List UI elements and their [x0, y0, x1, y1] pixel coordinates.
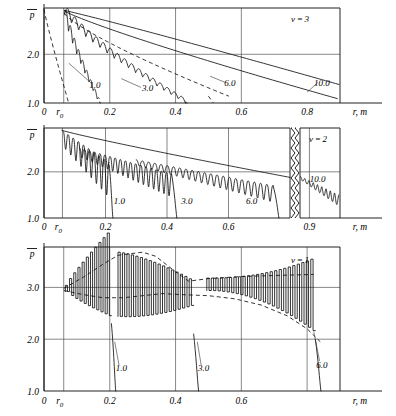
figure-root: 0r00.20.40.60.82.01.0pr, mν = 31.03.06.0…: [0, 0, 396, 416]
svg-text:r, m: r, m: [353, 222, 367, 232]
curve-envelope-mid-tail: [208, 96, 213, 103]
svg-text:6.0: 6.0: [224, 78, 236, 88]
chart-panel-nu-2: 0r00.20.40.60.92.01.0pr, mν = 21.03.06.0…: [0, 122, 396, 235]
svg-text:0: 0: [42, 107, 47, 117]
svg-text:0.8: 0.8: [301, 107, 313, 117]
svg-text:2.0: 2.0: [27, 167, 39, 177]
svg-text:r0: r0: [56, 107, 64, 120]
svg-text:3.0: 3.0: [180, 196, 193, 206]
curve-envelope-left: [44, 9, 69, 103]
panel-nu-2-canvas: 0r00.20.40.60.92.01.0pr, mν = 21.03.06.0…: [0, 122, 396, 235]
svg-text:ν = 1: ν = 1: [291, 255, 309, 265]
svg-text:2.0: 2.0: [27, 335, 39, 345]
svg-text:r0: r0: [56, 396, 64, 409]
svg-text:0.4: 0.4: [170, 107, 182, 117]
leader-3-0: [197, 342, 201, 365]
leader-1-0: [69, 63, 92, 83]
chart-panel-nu-1: 0r00.20.40.63.02.01.0pr, mν = 11.03.06.0: [0, 239, 396, 416]
svg-text:2.0: 2.0: [27, 50, 39, 60]
svg-text:0.4: 0.4: [170, 396, 182, 406]
leader-1-0: [115, 342, 119, 365]
svg-text:3.0: 3.0: [197, 363, 210, 373]
svg-text:p: p: [29, 130, 35, 140]
svg-text:r0: r0: [55, 222, 63, 235]
svg-text:r, m: r, m: [353, 107, 367, 117]
svg-text:1.0: 1.0: [89, 80, 101, 90]
curve-1-0-drop: [111, 324, 115, 391]
curve-3-0: [118, 252, 194, 317]
svg-text:r, m: r, m: [353, 396, 367, 406]
leader-3-0: [121, 79, 141, 88]
curve-6-0: [207, 259, 316, 330]
curve-1-0-drop: [109, 165, 113, 218]
svg-text:6.0: 6.0: [246, 196, 258, 206]
axis-break-left: [291, 128, 295, 218]
svg-text:0.2: 0.2: [100, 222, 112, 232]
svg-text:1.0: 1.0: [27, 99, 39, 109]
svg-text:0.6: 0.6: [235, 107, 247, 117]
svg-text:0.6: 0.6: [223, 222, 235, 232]
curve-3-0-drop: [172, 174, 177, 218]
curve-3-0: [64, 8, 185, 103]
curve-6-0-drop: [273, 186, 279, 218]
curve-6-0: [136, 160, 273, 201]
svg-text:0.2: 0.2: [104, 396, 116, 406]
svg-text:1.0: 1.0: [116, 363, 128, 373]
svg-text:0: 0: [42, 396, 47, 406]
svg-text:0.6: 0.6: [235, 396, 247, 406]
curve-smooth-upper: [62, 130, 290, 177]
chart-panel-nu-3: 0r00.20.40.60.82.01.0pr, mν = 31.03.06.0…: [0, 0, 396, 118]
svg-text:3.0: 3.0: [26, 283, 39, 293]
leader-6-0: [314, 331, 320, 361]
svg-text:ν = 3: ν = 3: [291, 14, 310, 24]
svg-text:10.0: 10.0: [310, 174, 326, 184]
panel-nu-3-canvas: 0r00.20.40.60.82.01.0pr, mν = 31.03.06.0…: [0, 0, 396, 118]
svg-text:p: p: [29, 10, 35, 20]
svg-text:0.9: 0.9: [303, 222, 315, 232]
svg-text:p: p: [29, 249, 35, 259]
svg-text:3.0: 3.0: [141, 83, 154, 93]
curve-6-0: [64, 11, 337, 99]
svg-text:0: 0: [42, 222, 47, 232]
panel-nu-1-canvas: 0r00.20.40.63.02.01.0pr, mν = 11.03.06.0: [0, 239, 396, 416]
svg-text:1.0: 1.0: [27, 214, 39, 224]
svg-text:6.0: 6.0: [316, 360, 328, 370]
curve-1-0: [63, 131, 109, 195]
svg-text:0.4: 0.4: [161, 222, 173, 232]
svg-text:1.0: 1.0: [27, 387, 39, 397]
svg-text:0.2: 0.2: [104, 107, 116, 117]
svg-text:1.0: 1.0: [114, 196, 126, 206]
svg-text:ν = 2: ν = 2: [309, 134, 328, 144]
